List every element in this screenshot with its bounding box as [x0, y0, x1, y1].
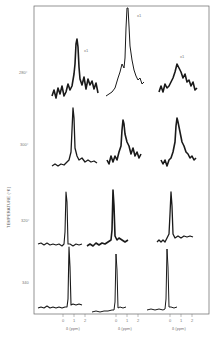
tick-label: 1 [126, 318, 128, 323]
peak-scale-label-1: x1 [84, 48, 88, 53]
spectra-traces [38, 8, 197, 312]
tick-label: 1 [73, 318, 75, 323]
tick-label: 2 [191, 318, 193, 323]
tick-label: 2 [137, 318, 139, 323]
tick-label: 0 [169, 318, 171, 323]
plot-frame [34, 6, 209, 314]
peak-scale-label-2: x1 [137, 13, 141, 18]
temp-label-280: 280° [19, 70, 27, 75]
x-axis-label-1: δ (ppm) [66, 326, 80, 331]
temp-label-340: 340 [22, 280, 29, 285]
x-axis-label-2: δ (ppm) [118, 326, 132, 331]
tick-label: 1 [180, 318, 182, 323]
tick-label: 0 [62, 318, 64, 323]
temp-label-320: 320° [21, 218, 29, 223]
peak-scale-label-3: x1 [180, 54, 184, 59]
nmr-figure: 280° 300° 320° 340 TEMPERATURE (°K) x1 x… [0, 0, 219, 341]
x-ticks [63, 314, 192, 317]
spectra-plot [0, 0, 219, 341]
x-axis-label-3: δ (ppm) [172, 326, 186, 331]
tick-label: 0 [115, 318, 117, 323]
tick-label: 2 [84, 318, 86, 323]
y-axis-label: TEMPERATURE (°K) [6, 187, 11, 228]
temp-label-300: 300° [20, 142, 28, 147]
